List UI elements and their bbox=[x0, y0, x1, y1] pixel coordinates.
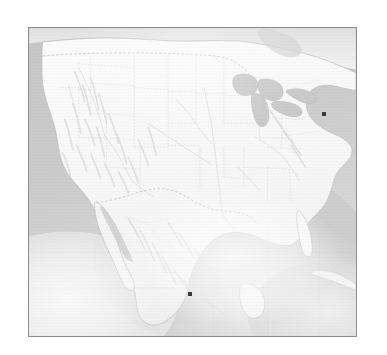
city-marker-east-coast[interactable] bbox=[322, 112, 326, 116]
page-root bbox=[0, 0, 387, 355]
city-marker-central-mexico[interactable] bbox=[188, 292, 192, 296]
map-canvas bbox=[29, 28, 356, 336]
map-figure-frame bbox=[28, 27, 357, 337]
